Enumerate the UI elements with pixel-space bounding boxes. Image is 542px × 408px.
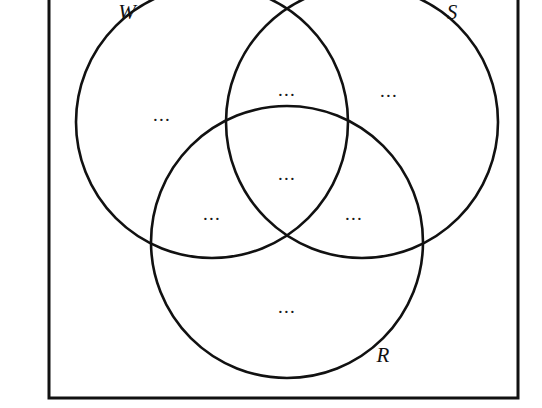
region-label-s-and-r: ... [345,203,363,224]
set-label-w: W [118,0,138,24]
set-label-r: R [376,343,390,367]
region-label-w-only: ... [153,104,171,125]
region-label-r-only: ... [278,296,296,317]
set-label-s: S [447,0,458,24]
region-label-w-and-s: ... [278,79,296,100]
figure-background [0,0,542,408]
venn-diagram-figure: W S R ... ... ... ... ... ... ... [0,0,542,408]
region-label-s-only: ... [380,80,398,101]
region-label-w-s-r: ... [278,163,296,184]
region-label-w-and-r: ... [203,203,221,224]
venn-diagram-canvas: W S R ... ... ... ... ... ... ... [0,0,542,408]
